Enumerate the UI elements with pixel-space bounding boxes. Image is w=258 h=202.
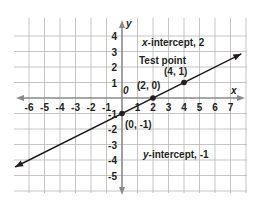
y-intercept-annotation: y-intercept, -1 (142, 149, 209, 160)
x-tick-label: 6 (212, 102, 218, 113)
y-tick-label: 3 (111, 47, 117, 58)
x-tick-label: -5 (40, 102, 49, 113)
x-axis-label: x (230, 85, 237, 96)
y-tick-label: 4 (111, 31, 117, 42)
point-label-2-0: (2, 0) (137, 80, 160, 91)
y-axis-label: y (125, 18, 132, 29)
point-label-0-neg1: (0, -1) (125, 119, 152, 130)
data-point (119, 111, 125, 117)
y-axis-up-arrow-icon (119, 20, 125, 28)
x-tick-label: -2 (87, 102, 96, 113)
y-tick-label: -2 (108, 124, 117, 135)
x-tick-label: 2 (150, 102, 156, 113)
y-tick-label: 1 (111, 78, 117, 89)
y-tick-label: -5 (108, 171, 117, 182)
line-arrow-start-icon (15, 161, 24, 167)
x-tick-label: 4 (181, 102, 187, 113)
point-label-4-1: (4, 1) (164, 66, 187, 77)
x-axis-left-arrow-icon (16, 95, 24, 101)
origin-label: 0 (123, 85, 129, 96)
x-tick-label: -3 (71, 102, 80, 113)
y-tick-label: 2 (111, 62, 117, 73)
test-point-annotation: Test point (139, 55, 187, 66)
x-axis-right-arrow-icon (237, 95, 245, 101)
axes (16, 20, 245, 195)
data-point (181, 80, 187, 86)
x-tick-label: 7 (228, 102, 234, 113)
line-arrow-end-icon (233, 54, 242, 60)
x-tick-label: -6 (25, 102, 34, 113)
x-intercept-annotation: x-intercept, 2 (141, 37, 205, 48)
coordinate-plane: -6-5-4-3-2-112345674321-1-2-3-4-5 x y 0 … (0, 0, 258, 202)
x-tick-label: 5 (197, 102, 203, 113)
y-tick-label: -4 (108, 155, 117, 166)
data-point (150, 95, 156, 101)
x-tick-label: 3 (166, 102, 172, 113)
y-tick-label: -3 (108, 140, 117, 151)
x-tick-label: -4 (56, 102, 65, 113)
